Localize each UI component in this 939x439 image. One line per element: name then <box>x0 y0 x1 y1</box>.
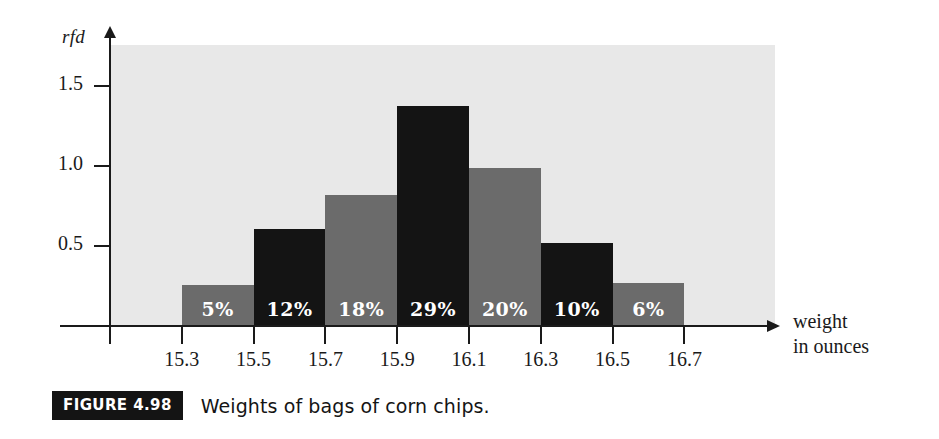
x-axis-tick-label: 16.3 <box>501 348 581 371</box>
x-axis-tick-label: 16.1 <box>429 348 509 371</box>
histogram-bar: 18% <box>325 195 397 325</box>
figure-histogram: 5%12%18%29%20%10%6% rfd 0.51.01.5 15.315… <box>0 0 939 439</box>
x-axis-arrow-icon <box>767 320 780 332</box>
histogram-bar: 6% <box>613 283 685 325</box>
x-axis-title-line-2: in ounces <box>793 334 869 359</box>
bar-value-label: 10% <box>541 298 613 320</box>
x-axis-line <box>60 325 769 327</box>
y-axis-tick-label: 0.5 <box>41 232 83 255</box>
bar-value-label: 20% <box>469 298 541 320</box>
x-axis-tick-label: 16.5 <box>573 348 653 371</box>
figure-caption: FIGURE 4.98 Weights of bags of corn chip… <box>52 391 490 420</box>
x-axis-title: weight in ounces <box>793 309 869 359</box>
x-axis-title-line-1: weight <box>793 309 869 334</box>
x-axis-tick-mark <box>109 327 111 344</box>
x-axis-tick-mark <box>181 327 183 344</box>
y-axis-title: rfd <box>62 26 85 48</box>
figure-caption-text: Weights of bags of corn chips. <box>201 395 490 417</box>
x-axis-tick-label: 15.9 <box>357 348 437 371</box>
x-axis-tick-mark <box>683 327 685 344</box>
x-axis-tick-label: 15.7 <box>285 348 365 371</box>
y-axis-tick-mark <box>94 165 111 167</box>
bar-value-label: 29% <box>397 298 469 320</box>
x-axis-tick-label: 15.5 <box>214 348 294 371</box>
x-axis-tick-mark <box>396 327 398 344</box>
histogram-bar: 10% <box>541 243 613 325</box>
bar-value-label: 18% <box>325 298 397 320</box>
bar-value-label: 5% <box>182 298 254 320</box>
y-axis-tick-mark <box>94 245 111 247</box>
histogram-bar: 20% <box>469 168 541 325</box>
y-axis-arrow-icon <box>104 26 116 38</box>
bar-value-label: 6% <box>613 298 685 320</box>
x-axis-tick-label: 16.7 <box>644 348 724 371</box>
histogram-bar: 12% <box>254 229 326 325</box>
y-axis-tick-label: 1.5 <box>41 72 83 95</box>
x-axis-tick-mark <box>612 327 614 344</box>
x-axis-tick-mark <box>253 327 255 344</box>
y-axis-tick-mark <box>94 85 111 87</box>
histogram-bar: 29% <box>397 106 469 325</box>
x-axis-tick-label: 15.3 <box>142 348 222 371</box>
x-axis-tick-mark <box>468 327 470 344</box>
bar-value-label: 12% <box>254 298 326 320</box>
x-axis-tick-mark <box>540 327 542 344</box>
x-axis-tick-mark <box>324 327 326 344</box>
y-axis-tick-label: 1.0 <box>41 152 83 175</box>
y-axis-line <box>109 36 111 326</box>
figure-number-badge: FIGURE 4.98 <box>52 391 183 420</box>
histogram-bar: 5% <box>182 285 254 325</box>
